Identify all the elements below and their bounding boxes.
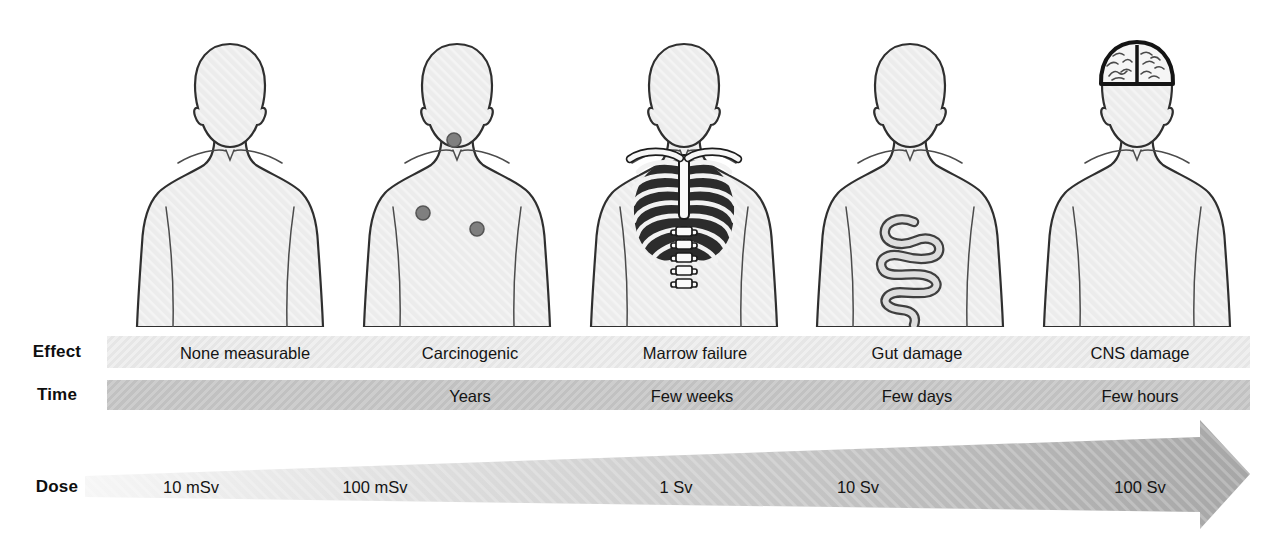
time-row-label: Time (14, 380, 100, 410)
time-value-few-hours: Few hours (1101, 387, 1178, 406)
effect-value-marrow-failure: Marrow failure (643, 344, 748, 363)
dose-value-100sv: 100 Sv (1114, 478, 1165, 497)
time-value-few-weeks: Few weeks (651, 387, 734, 406)
effect-value-none-measurable: None measurable (180, 344, 310, 363)
effect-value-carcinogenic: Carcinogenic (422, 344, 518, 363)
time-value-years: Years (449, 387, 491, 406)
radiation-dose-effects-diagram: Effect None measurable Carcinogenic Marr… (0, 0, 1287, 546)
effect-value-gut-damage: Gut damage (872, 344, 963, 363)
time-value-few-days: Few days (882, 387, 953, 406)
tumor-dots-icon (357, 32, 557, 327)
ribcage-icon (584, 32, 784, 327)
dose-row-label: Dose (14, 477, 100, 497)
dose-value-10msv: 10 mSv (163, 478, 219, 497)
effect-value-cns-damage: CNS damage (1090, 344, 1189, 363)
effect-row-label: Effect (14, 336, 100, 368)
dose-value-1sv: 1 Sv (659, 478, 692, 497)
intestine-icon (810, 32, 1010, 327)
plain-torso-icon (130, 32, 330, 327)
brain-icon (1037, 32, 1237, 327)
dose-value-100msv: 100 mSv (342, 478, 407, 497)
dose-value-10sv: 10 Sv (837, 478, 879, 497)
brain (1101, 42, 1173, 84)
